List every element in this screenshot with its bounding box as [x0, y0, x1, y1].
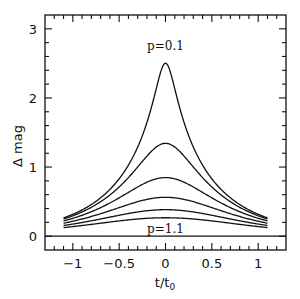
annotation-p-0.1: p=0.1: [147, 39, 184, 53]
curve-p=0.5: [64, 178, 268, 221]
x-tick-label: −0.5: [103, 256, 135, 271]
light-curves: [64, 63, 268, 227]
y-axis-label: Δ mag: [10, 125, 25, 167]
y-tick-label: 0: [29, 229, 37, 244]
x-tick-labels: −1−0.500.51: [63, 256, 262, 271]
chart-canvas: −1−0.500.51 0123 p=0.1 p=1.1 t/t0 Δ mag: [0, 0, 300, 299]
y-tick-labels: 0123: [29, 22, 37, 244]
x-axis-label-subscript: 0: [169, 282, 175, 292]
x-tick-label: 0.5: [202, 256, 223, 271]
x-tick-label: −1: [63, 256, 82, 271]
y-tick-label: 1: [29, 160, 37, 175]
curve-p=0.3: [64, 143, 268, 219]
y-tick-label: 2: [29, 91, 37, 106]
annotation-p-1.1: p=1.1: [147, 222, 184, 236]
x-tick-label: 0: [161, 256, 169, 271]
x-tick-label: 1: [254, 256, 262, 271]
x-axis-label-main: t/t: [155, 275, 170, 290]
curve-p=0.1: [64, 63, 268, 218]
x-axis-label: t/t0: [155, 275, 176, 292]
y-tick-label: 3: [29, 22, 37, 37]
